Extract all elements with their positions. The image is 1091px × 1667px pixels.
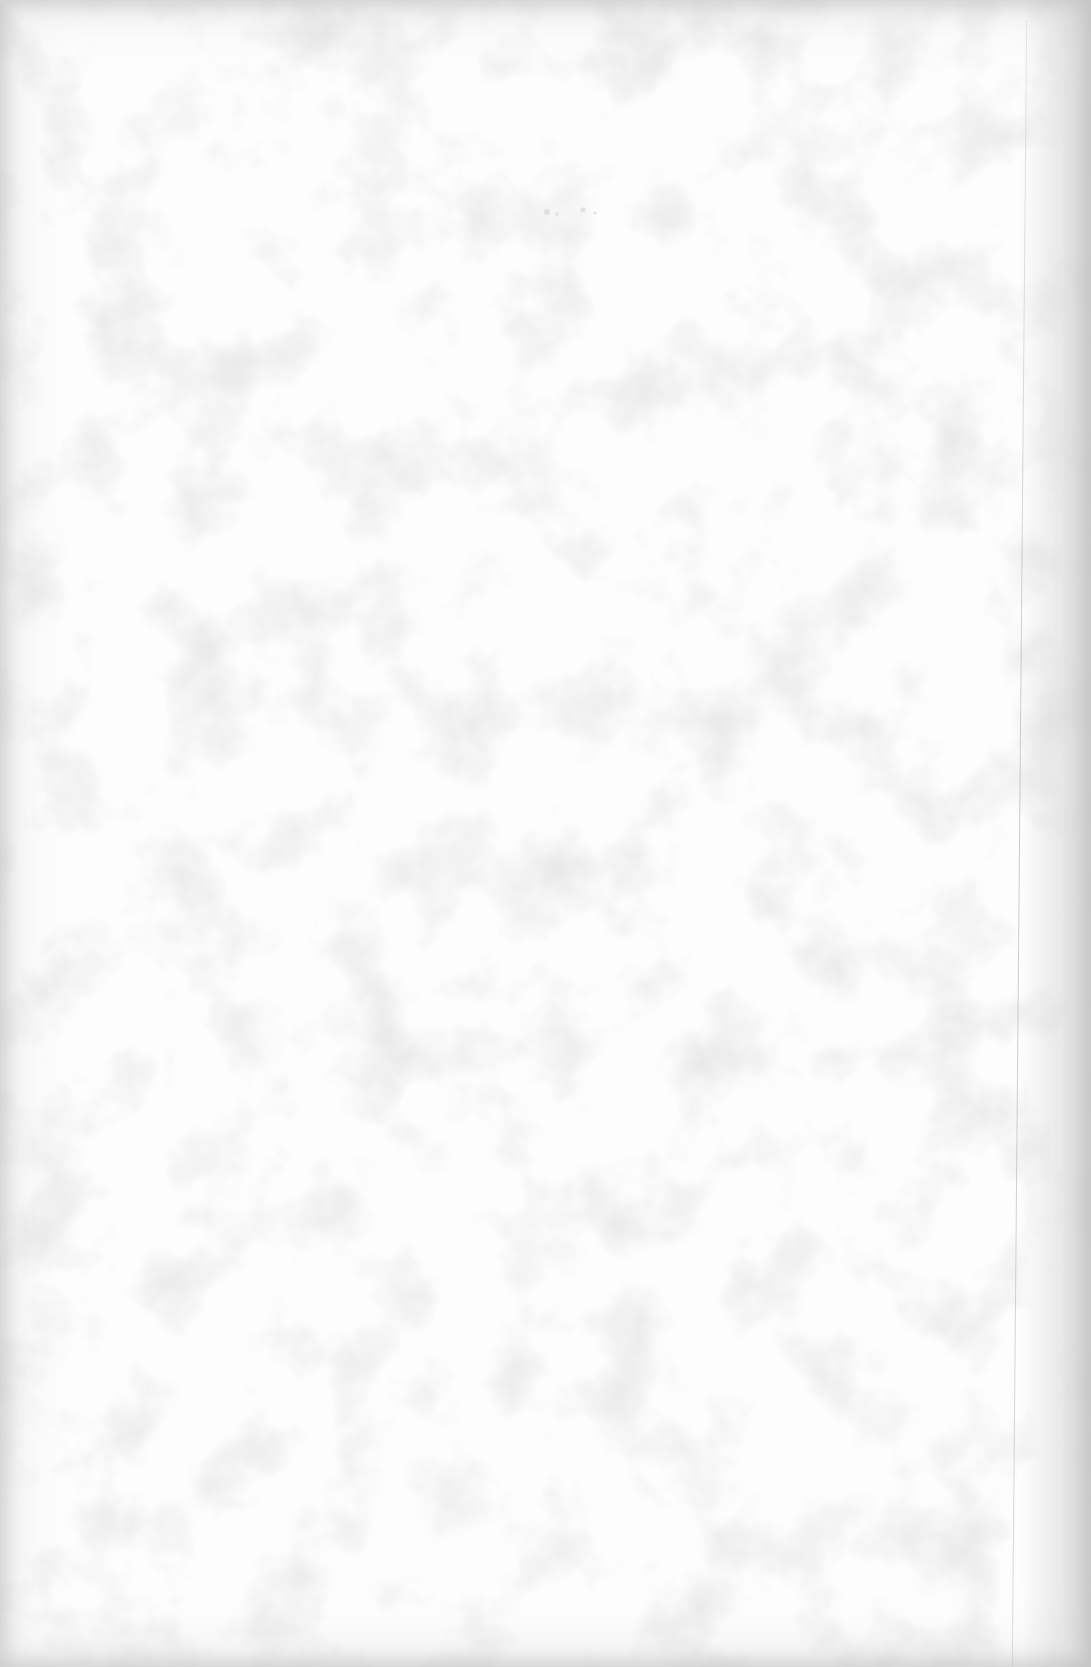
scanned-blank-page bbox=[0, 0, 1091, 1667]
scan-vignette bbox=[0, 0, 1091, 1667]
faint-smudge bbox=[535, 200, 615, 224]
paper-texture bbox=[0, 0, 1091, 1667]
page-fold-line bbox=[1012, 20, 1027, 1667]
scan-edge-shadow bbox=[1021, 0, 1091, 1667]
